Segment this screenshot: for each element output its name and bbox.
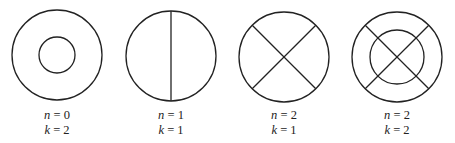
fig-2-caption: n = 1 k = 1 <box>141 108 201 138</box>
fig-1-inner-circle <box>39 37 75 73</box>
fig-3-k-label: k = 1 <box>254 123 314 138</box>
fig-1-n-label: n = 0 <box>27 108 87 123</box>
fig-3-n-label: n = 2 <box>254 108 314 123</box>
fig-4-k-label: k = 2 <box>367 123 427 138</box>
figure-1 <box>12 10 102 100</box>
fig-1-k-label: k = 2 <box>27 123 87 138</box>
figure-2 <box>126 11 216 101</box>
fig-2-n-label: n = 1 <box>141 108 201 123</box>
fig-1-caption: n = 0 k = 2 <box>27 108 87 138</box>
fig-1-outer-circle <box>12 10 102 100</box>
fig-2-k-label: k = 1 <box>141 123 201 138</box>
fig-4-caption: n = 2 k = 2 <box>367 108 427 138</box>
fig-4-n-label: n = 2 <box>367 108 427 123</box>
figure-4 <box>352 12 442 102</box>
figure-3 <box>239 12 329 102</box>
fig-3-caption: n = 2 k = 1 <box>254 108 314 138</box>
